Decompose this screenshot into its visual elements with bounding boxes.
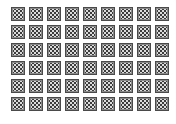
checkered-tile-icon[interactable] [155,97,169,111]
checkered-tile-icon[interactable] [83,79,97,93]
checkered-tile-icon[interactable] [65,7,79,21]
checkered-tile-icon[interactable] [11,7,25,21]
checkered-tile-icon[interactable] [47,61,61,75]
checkered-tile-icon[interactable] [137,79,151,93]
checkered-tile-icon[interactable] [29,61,43,75]
checkered-tile-icon[interactable] [83,61,97,75]
checkered-tile-icon[interactable] [119,7,133,21]
checkered-tile-icon[interactable] [47,7,61,21]
checkered-tile-icon[interactable] [119,97,133,111]
checkered-tile-icon[interactable] [119,43,133,57]
checkered-tile-icon[interactable] [155,7,169,21]
checkered-tile-icon[interactable] [11,61,25,75]
checkered-tile-icon[interactable] [65,61,79,75]
checkered-tile-icon[interactable] [47,43,61,57]
checkered-tile-icon[interactable] [101,7,115,21]
checkered-tile-icon[interactable] [155,43,169,57]
checkered-tile-icon[interactable] [137,7,151,21]
checkered-tile-icon[interactable] [83,25,97,39]
checkered-tile-icon[interactable] [65,25,79,39]
checkered-tile-icon[interactable] [101,25,115,39]
checkered-tile-icon[interactable] [11,97,25,111]
checkered-tile-icon[interactable] [137,97,151,111]
checkered-tile-icon[interactable] [155,25,169,39]
checkered-tile-icon[interactable] [137,25,151,39]
checkered-tile-icon[interactable] [137,61,151,75]
checkered-tile-icon[interactable] [65,43,79,57]
checkered-tile-icon[interactable] [29,7,43,21]
checkered-tile-icon[interactable] [155,79,169,93]
tile-grid [11,7,169,111]
checkered-tile-icon[interactable] [11,43,25,57]
checkered-tile-icon[interactable] [119,61,133,75]
checkered-tile-icon[interactable] [83,7,97,21]
checkered-tile-icon[interactable] [29,79,43,93]
checkered-tile-icon[interactable] [65,97,79,111]
checkered-tile-icon[interactable] [119,25,133,39]
checkered-tile-icon[interactable] [29,25,43,39]
checkered-tile-icon[interactable] [155,61,169,75]
checkered-tile-icon[interactable] [29,97,43,111]
checkered-tile-icon[interactable] [101,43,115,57]
checkered-tile-icon[interactable] [11,79,25,93]
checkered-tile-icon[interactable] [119,79,133,93]
checkered-tile-icon[interactable] [47,79,61,93]
checkered-tile-icon[interactable] [11,25,25,39]
checkered-tile-icon[interactable] [29,43,43,57]
checkered-tile-icon[interactable] [101,61,115,75]
checkered-tile-icon[interactable] [137,43,151,57]
checkered-tile-icon[interactable] [101,97,115,111]
checkered-tile-icon[interactable] [101,79,115,93]
checkered-tile-icon[interactable] [47,97,61,111]
checkered-tile-icon[interactable] [65,79,79,93]
checkered-tile-icon[interactable] [83,97,97,111]
checkered-tile-icon[interactable] [83,43,97,57]
checkered-tile-icon[interactable] [47,25,61,39]
